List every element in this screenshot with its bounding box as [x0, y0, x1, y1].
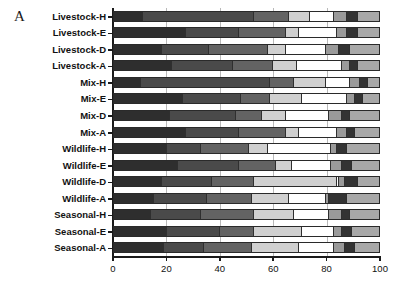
- x-axis-ticks: 020406080100: [113, 257, 380, 279]
- stacked-bar: [113, 160, 380, 171]
- bar-segment: [342, 161, 353, 170]
- category-axis-labels: Livestock-HLivestock-ELivestock-DLivesto…: [0, 8, 110, 256]
- bar-segment: [302, 94, 347, 103]
- bar-segment: [114, 144, 167, 153]
- stacked-bar: [113, 143, 380, 154]
- bar-segment: [268, 45, 287, 54]
- x-axis-tick-label: 40: [215, 263, 226, 274]
- category-label: Seasonal-A: [54, 242, 106, 253]
- bar-segment: [114, 194, 154, 203]
- bar-segment: [342, 227, 353, 236]
- bar-segment: [329, 194, 348, 203]
- bar-segment: [334, 12, 347, 21]
- bar-segment: [355, 243, 379, 252]
- bar-row: [113, 160, 380, 171]
- bar-segment: [352, 227, 379, 236]
- category-label: Livestock-A: [52, 60, 106, 71]
- category-label: Livestock-D: [52, 44, 106, 55]
- bar-segment: [363, 94, 379, 103]
- bar-segment: [254, 12, 288, 21]
- bar-segment: [358, 177, 379, 186]
- bar-segment: [358, 12, 379, 21]
- bar-segment: [358, 28, 379, 37]
- bar-segment: [334, 243, 345, 252]
- bar-segment: [114, 128, 186, 137]
- category-label: Mix-E: [81, 93, 106, 104]
- x-axis-tick: [112, 257, 114, 261]
- bar-segment: [114, 12, 143, 21]
- plot-area: [113, 8, 380, 256]
- bar-segment: [273, 61, 297, 70]
- bar-segment: [114, 78, 141, 87]
- bar-segment: [186, 128, 239, 137]
- bar-row: [113, 110, 380, 121]
- bar-segment: [167, 227, 220, 236]
- bar-row: [113, 193, 380, 204]
- bar-segment: [209, 45, 267, 54]
- bar-row: [113, 60, 380, 71]
- stacked-bar: [113, 226, 380, 237]
- bar-segment: [114, 28, 186, 37]
- bar-segment: [292, 161, 332, 170]
- bar-segment: [347, 194, 379, 203]
- bar-segment: [236, 111, 263, 120]
- bar-segment: [334, 227, 342, 236]
- category-label: Wildlife-H: [62, 143, 106, 154]
- bar-segment: [299, 243, 333, 252]
- bar-segment: [360, 78, 368, 87]
- category-label: Livestock-E: [53, 27, 106, 38]
- bar-segment: [337, 128, 348, 137]
- bar-segment: [114, 111, 170, 120]
- bar-segment: [358, 61, 379, 70]
- bar-segment: [151, 210, 201, 219]
- bar-row: [113, 143, 380, 154]
- x-axis-tick-label: 60: [268, 263, 279, 274]
- x-axis-tick: [379, 257, 381, 261]
- stacked-bar: [113, 93, 380, 104]
- stacked-bar: [113, 110, 380, 121]
- bar-segment: [352, 161, 379, 170]
- bar-row: [113, 226, 380, 237]
- bar-segment: [268, 144, 332, 153]
- bar-segment: [162, 45, 210, 54]
- bar-segment: [310, 12, 334, 21]
- bar-segment: [162, 177, 212, 186]
- bar-row: [113, 242, 380, 253]
- bar-segment: [201, 210, 254, 219]
- x-axis-tick-label: 20: [161, 263, 172, 274]
- x-axis-tick: [219, 257, 221, 261]
- bar-segment: [239, 128, 287, 137]
- bar-segment: [183, 94, 241, 103]
- category-label: Mix-A: [80, 127, 106, 138]
- stacked-bar: [113, 77, 380, 88]
- bar-segment: [114, 227, 167, 236]
- bar-segment: [239, 28, 287, 37]
- bar-segment: [299, 128, 336, 137]
- bar-row: [113, 27, 380, 38]
- bar-segment: [170, 111, 236, 120]
- bar-segment: [339, 45, 350, 54]
- bar-segment: [164, 243, 204, 252]
- bar-segment: [347, 28, 358, 37]
- stacked-bar: [113, 11, 380, 22]
- stacked-bar: [113, 209, 380, 220]
- bar-segment: [114, 161, 178, 170]
- bar-segment: [342, 210, 350, 219]
- bar-segment: [337, 28, 348, 37]
- bar-row: [113, 176, 380, 187]
- bar-segment: [178, 161, 239, 170]
- bar-segment: [350, 111, 379, 120]
- bar-segment: [114, 210, 151, 219]
- bar-segment: [329, 210, 342, 219]
- x-axis-tick: [272, 257, 274, 261]
- bar-segment: [254, 210, 294, 219]
- bar-segment: [154, 194, 207, 203]
- bar-segment: [186, 28, 239, 37]
- stacked-bar: [113, 127, 380, 138]
- stacked-bar-chart-figure: A Livestock-HLivestock-ELivestock-DLives…: [0, 0, 396, 298]
- bar-row: [113, 209, 380, 220]
- stacked-bar: [113, 44, 380, 55]
- bar-segment: [326, 45, 339, 54]
- category-label: Wildlife-A: [62, 193, 106, 204]
- bar-segment: [241, 94, 270, 103]
